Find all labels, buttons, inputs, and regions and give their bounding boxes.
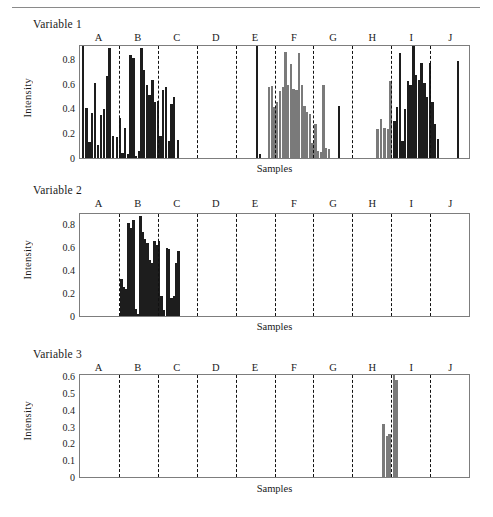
bar (457, 153, 459, 158)
group-divider (275, 214, 276, 316)
group-divider (391, 375, 392, 477)
panel-title-variable-2: Variable 2 (33, 184, 82, 196)
bar (177, 251, 179, 316)
bar (82, 46, 84, 158)
group-label-f: F (274, 361, 313, 375)
y-tick-label: 0.1 (63, 456, 76, 466)
x-axis-title-variable-3: Samples (79, 483, 470, 494)
group-label-d: D (196, 197, 235, 211)
group-divider (391, 46, 392, 158)
group-label-b: B (118, 361, 157, 375)
bar (437, 139, 439, 158)
y-tick-label: 0.6 (63, 80, 76, 90)
y-tick-label: 0.4 (63, 266, 76, 276)
y-tick-label: 0.3 (63, 423, 76, 433)
plot-area-variable-2 (79, 213, 470, 317)
group-divider (275, 46, 276, 158)
bar (395, 380, 397, 477)
bars-variable-3 (80, 375, 469, 477)
y-tick-label: 0.5 (63, 389, 76, 399)
bar (457, 61, 459, 158)
group-label-b: B (118, 31, 157, 45)
group-label-h: H (353, 197, 392, 211)
y-tick-label: 0.4 (63, 406, 76, 416)
group-label-c: C (157, 361, 196, 375)
group-label-f: F (274, 31, 313, 45)
y-tick-label: 0.2 (63, 289, 76, 299)
bar (162, 310, 164, 316)
group-label-a: A (79, 197, 118, 211)
y-tick-label: 0.8 (63, 220, 76, 230)
group-divider (313, 214, 314, 316)
panel-title-variable-3: Variable 3 (33, 348, 82, 360)
bar (338, 106, 340, 158)
group-label-j: J (431, 361, 470, 375)
y-tick-label: 0 (70, 473, 75, 483)
group-divider (430, 46, 431, 158)
group-label-d: D (196, 361, 235, 375)
group-label-i: I (392, 361, 431, 375)
bar (132, 58, 134, 158)
y-tick-label: 0 (70, 154, 75, 164)
bar (112, 136, 114, 158)
bar (177, 140, 179, 158)
group-labels-variable-2: ABCDEFGHIJ (79, 197, 470, 211)
y-axis-variable-2: 00.20.40.60.8 (35, 213, 79, 317)
group-label-g: G (314, 361, 353, 375)
bar (97, 145, 99, 158)
group-label-c: C (157, 31, 196, 45)
y-tick-label: 0.6 (63, 372, 76, 382)
group-label-a: A (79, 361, 118, 375)
group-label-a: A (79, 31, 118, 45)
group-divider (352, 46, 353, 158)
plot-area-variable-1 (79, 45, 470, 159)
bar (380, 119, 382, 158)
group-label-f: F (274, 197, 313, 211)
group-divider (352, 375, 353, 477)
group-label-j: J (431, 31, 470, 45)
group-divider (275, 375, 276, 477)
top-divider-rule (12, 7, 480, 8)
group-label-i: I (392, 197, 431, 211)
bar (108, 48, 110, 158)
group-divider (236, 375, 237, 477)
y-tick-label: 0.8 (63, 55, 76, 65)
group-divider (158, 214, 159, 316)
x-axis-title-variable-1: Samples (79, 163, 470, 174)
bars-variable-2 (80, 214, 469, 316)
group-divider (236, 46, 237, 158)
y-tick-label: 0.6 (63, 243, 76, 253)
group-divider (352, 214, 353, 316)
y-axis-title-variable-2: Intensity (22, 240, 33, 279)
group-divider (197, 214, 198, 316)
group-divider (158, 46, 159, 158)
bar (328, 149, 330, 158)
y-axis-variable-3: 00.10.20.30.40.50.6 (35, 374, 79, 478)
y-tick-label: 0.4 (63, 104, 76, 114)
group-divider (197, 375, 198, 477)
bar (383, 128, 385, 158)
bar (259, 154, 261, 158)
group-divider (197, 46, 198, 158)
bar (256, 46, 258, 158)
plot-area-variable-3 (79, 374, 470, 478)
group-label-b: B (118, 197, 157, 211)
group-divider (158, 375, 159, 477)
x-axis-title-variable-2: Samples (79, 321, 470, 332)
y-tick-label: 0.2 (63, 129, 76, 139)
group-label-e: E (235, 31, 274, 45)
group-label-i: I (392, 31, 431, 45)
group-divider (391, 214, 392, 316)
panel-title-variable-1: Variable 1 (33, 18, 82, 30)
group-divider (313, 46, 314, 158)
bar (376, 129, 378, 158)
group-label-d: D (196, 31, 235, 45)
group-divider (430, 375, 431, 477)
y-axis-title-variable-3: Intensity (22, 401, 33, 440)
bar (91, 113, 93, 158)
group-divider (119, 214, 120, 316)
y-axis-title-variable-1: Intensity (22, 78, 33, 117)
bar (103, 109, 105, 158)
group-label-j: J (431, 197, 470, 211)
group-label-h: H (353, 31, 392, 45)
